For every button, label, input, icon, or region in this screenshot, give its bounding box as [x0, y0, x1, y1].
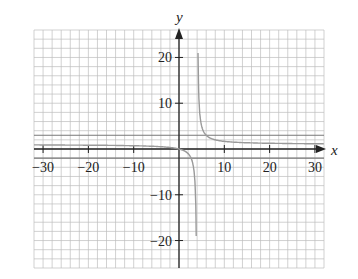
y-tick-label: −20 — [150, 234, 172, 249]
x-tick-label: −20 — [77, 160, 99, 175]
y-tick-label: 20 — [158, 50, 172, 65]
y-tick-label: 10 — [158, 96, 172, 111]
axes — [34, 28, 326, 268]
x-tick-label: 10 — [217, 160, 231, 175]
y-tick-label: −10 — [150, 188, 172, 203]
function-graph: −30−20−101020302010−10−20 x y — [0, 0, 358, 279]
x-axis-label: x — [330, 142, 338, 158]
x-tick-label: −10 — [123, 160, 145, 175]
y-axis-label: y — [174, 9, 183, 25]
x-tick-label: 20 — [263, 160, 277, 175]
x-tick-label: −30 — [32, 160, 54, 175]
x-tick-label: 30 — [308, 160, 322, 175]
